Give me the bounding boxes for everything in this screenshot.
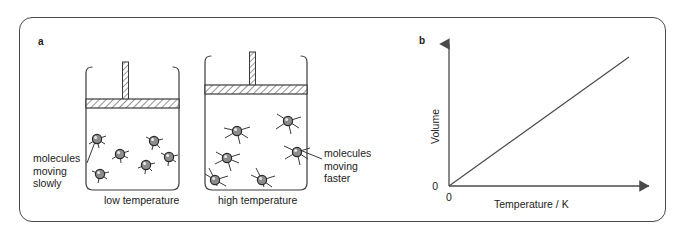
annotation-molecules-moving-faster: molecules moving faster [324, 147, 371, 185]
annotation-molecules-moving-slowly: molecules moving slowly [33, 152, 80, 190]
molecule [224, 126, 250, 144]
caption-low-temperature: low temperature [104, 194, 179, 206]
molecule [146, 136, 163, 150]
y-axis-origin-label: 0 [432, 180, 438, 192]
annotation-line: moving [324, 160, 371, 173]
chart-volume-vs-temperature: Volume Temperature / K 0 0 [429, 44, 649, 210]
molecule [112, 149, 129, 163]
annotation-line: molecules [324, 147, 371, 160]
molecule [276, 114, 301, 134]
container-low-temperature [86, 62, 179, 190]
x-axis-label: Temperature / K [494, 198, 569, 210]
molecule [89, 134, 106, 148]
molecule [215, 152, 240, 171]
figure-container: a b [0, 0, 685, 248]
molecule [284, 146, 310, 165]
molecule-group-high [205, 114, 310, 187]
y-axis-label: Volume [429, 109, 441, 144]
annotation-line: molecules [33, 152, 80, 165]
molecule [205, 168, 228, 186]
molecule [161, 152, 178, 166]
diagram-svg: Volume Temperature / K 0 0 [0, 0, 685, 248]
data-series-line [449, 57, 629, 186]
molecule-group-low [89, 134, 178, 183]
piston-plate-high [205, 85, 307, 94]
x-axis-origin-label: 0 [446, 191, 452, 203]
molecule [138, 160, 155, 174]
annotation-line: faster [324, 172, 371, 185]
molecule [92, 169, 109, 183]
annotation-line: slowly [33, 177, 80, 190]
caption-high-temperature: high temperature [218, 194, 297, 206]
annotation-line: moving [33, 165, 80, 178]
molecule [251, 168, 275, 187]
leader-line-faster [300, 150, 322, 159]
container-high-temperature [205, 52, 310, 190]
piston-rod-high [250, 52, 256, 86]
piston-plate-low [86, 99, 179, 108]
leader-line-slow [87, 142, 95, 163]
